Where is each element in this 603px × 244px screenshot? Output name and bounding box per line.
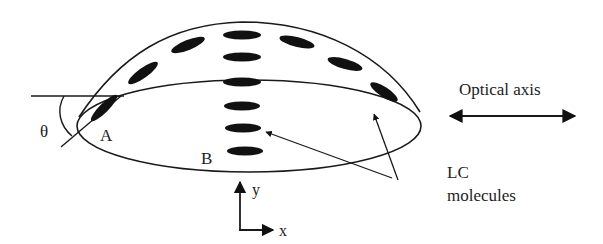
lc-molecule [223, 78, 261, 87]
lc-molecule [368, 79, 400, 105]
lc-molecule [223, 53, 261, 62]
lc-molecule [169, 34, 206, 57]
lc-molecule [326, 54, 363, 74]
lc-molecules-label-line2: molecules [447, 186, 516, 205]
theta-arc [60, 96, 72, 136]
lc-molecule [125, 58, 160, 87]
x-axis-label: x [279, 222, 287, 239]
lc-molecule [278, 33, 315, 51]
theta-label: θ [40, 122, 48, 141]
optical-axis-label: Optical axis [459, 80, 541, 99]
y-axis-label: y [252, 181, 260, 199]
point-b-label: B [201, 149, 212, 168]
lc-molecules-label-line1: LC [447, 163, 469, 182]
pointer-arrow-right [374, 114, 398, 180]
lc-droplet-diagram: θ A B y x Optical axis LC molecules [0, 0, 603, 244]
lc-pointer-arrows [266, 114, 398, 180]
lc-molecule [227, 147, 263, 156]
lc-molecule [224, 102, 260, 111]
lc-molecule [223, 31, 261, 40]
lc-molecule [225, 124, 261, 133]
point-a-label: A [100, 126, 113, 145]
